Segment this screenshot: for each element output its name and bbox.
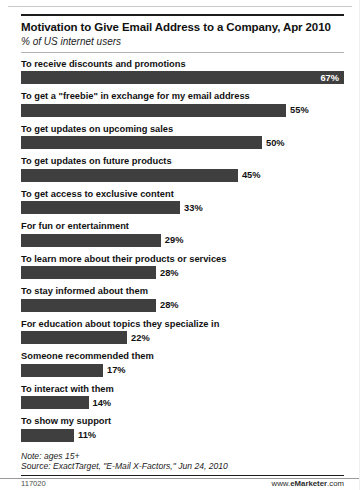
bar-list: To receive discounts and promotions67%To… bbox=[21, 59, 344, 442]
bar-category-label: To get updates on future products bbox=[21, 156, 344, 167]
bar-track: 45% bbox=[21, 169, 344, 182]
bar-fill bbox=[21, 429, 74, 442]
source-text: Source: ExactTarget, "E-Mail X-Factors,"… bbox=[21, 461, 344, 472]
bar-category-label: To show my support bbox=[21, 416, 344, 427]
card-bottom-rule bbox=[0, 478, 360, 479]
bar-value-label: 17% bbox=[107, 365, 126, 375]
bar-category-label: To get access to exclusive content bbox=[21, 189, 344, 200]
bar-category-label: To learn more about their products or se… bbox=[21, 254, 344, 265]
bar-row: To stay informed about them28% bbox=[21, 286, 344, 312]
bar-value-label: 28% bbox=[160, 268, 179, 278]
notes-block: Note: ages 15+ Source: ExactTarget, "E-M… bbox=[21, 451, 344, 472]
bar-row: To get updates on upcoming sales50% bbox=[21, 124, 344, 150]
bar-value-label: 14% bbox=[93, 398, 112, 408]
title-top-rule bbox=[21, 14, 344, 16]
bar-row: To get a "freebie" in exchange for my em… bbox=[21, 91, 344, 117]
bar-fill bbox=[21, 104, 286, 117]
bar-track: 50% bbox=[21, 136, 344, 149]
bar-row: For education about topics they speciali… bbox=[21, 319, 344, 345]
chart-subtitle: % of US internet users bbox=[21, 36, 344, 48]
bar-fill bbox=[21, 169, 238, 182]
bar-fill bbox=[21, 266, 156, 279]
brand-prefix: www. bbox=[272, 479, 291, 488]
bar-value-label: 11% bbox=[78, 430, 96, 440]
bar-fill bbox=[21, 136, 262, 149]
bar-track: 67% bbox=[21, 71, 344, 84]
bar-value-label: 45% bbox=[242, 170, 261, 180]
bar-row: To receive discounts and promotions67% bbox=[21, 59, 344, 85]
chart-footer: 117020 www.eMarketer.com bbox=[21, 479, 344, 488]
bar-row: To show my support11% bbox=[21, 416, 344, 442]
bar-track: 22% bbox=[21, 331, 344, 344]
bar-track: 11% bbox=[21, 429, 344, 442]
bar-track: 17% bbox=[21, 364, 344, 377]
bar-row: To interact with them14% bbox=[21, 384, 344, 410]
bar-value-label: 55% bbox=[290, 105, 309, 115]
bar-track: 28% bbox=[21, 299, 344, 312]
bar-fill: 67% bbox=[21, 71, 344, 84]
bar-value-label: 33% bbox=[184, 203, 203, 213]
bar-row: For fun or entertainment29% bbox=[21, 221, 344, 247]
bar-category-label: To receive discounts and promotions bbox=[21, 59, 344, 70]
emarketer-brand: www.eMarketer.com bbox=[272, 479, 344, 488]
brand-name: eMarketer bbox=[290, 479, 327, 488]
emarketer-chart-card: Motivation to Give Email Address to a Co… bbox=[0, 0, 360, 490]
bar-fill bbox=[21, 234, 161, 247]
bar-value-label: 29% bbox=[165, 235, 184, 245]
bar-fill bbox=[21, 299, 156, 312]
chart-inner: Motivation to Give Email Address to a Co… bbox=[21, 14, 344, 488]
bar-value-label: 22% bbox=[131, 333, 150, 343]
brand-suffix: .com bbox=[327, 479, 344, 488]
note-text: Note: ages 15+ bbox=[21, 451, 344, 462]
bar-track: 55% bbox=[21, 104, 344, 117]
bar-category-label: To get a "freebie" in exchange for my em… bbox=[21, 91, 344, 102]
bar-row: To learn more about their products or se… bbox=[21, 254, 344, 280]
bar-category-label: For education about topics they speciali… bbox=[21, 319, 344, 330]
top-scan-line bbox=[8, 6, 352, 7]
bar-category-label: To get updates on upcoming sales bbox=[21, 124, 344, 135]
bar-category-label: Someone recommended them bbox=[21, 351, 344, 362]
bar-track: 29% bbox=[21, 234, 344, 247]
bar-category-label: To stay informed about them bbox=[21, 286, 344, 297]
bar-category-label: To interact with them bbox=[21, 384, 344, 395]
chart-title: Motivation to Give Email Address to a Co… bbox=[21, 21, 344, 35]
bar-row: To get access to exclusive content33% bbox=[21, 189, 344, 215]
bar-track: 28% bbox=[21, 266, 344, 279]
bar-track: 14% bbox=[21, 396, 344, 409]
bar-value-label: 50% bbox=[266, 138, 285, 148]
chart-id: 117020 bbox=[21, 479, 46, 488]
bar-row: To get updates on future products45% bbox=[21, 156, 344, 182]
footer-rule bbox=[21, 475, 344, 477]
bar-value-label: 28% bbox=[160, 300, 179, 310]
bar-fill bbox=[21, 364, 103, 377]
bar-fill bbox=[21, 201, 180, 214]
bar-fill bbox=[21, 396, 89, 409]
bar-track: 33% bbox=[21, 201, 344, 214]
bar-category-label: For fun or entertainment bbox=[21, 221, 344, 232]
bar-value-label: 67% bbox=[320, 73, 339, 83]
subtitle-bottom-rule bbox=[21, 52, 344, 53]
bar-row: Someone recommended them17% bbox=[21, 351, 344, 377]
bar-fill bbox=[21, 331, 127, 344]
